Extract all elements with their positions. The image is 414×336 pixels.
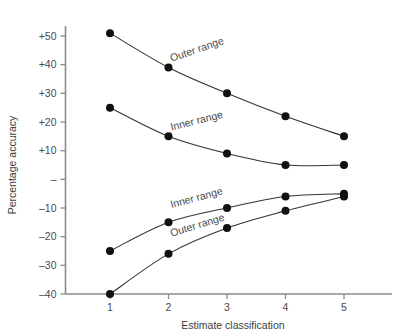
y-tick-label: –40	[39, 288, 57, 300]
x-tick-label: 3	[224, 301, 230, 313]
x-axis-title: Estimate classification	[181, 319, 284, 331]
data-point-marker	[340, 193, 348, 201]
y-tick-label: –10	[39, 202, 57, 214]
x-tick-label: 2	[166, 301, 172, 313]
percentage-accuracy-chart: +50+40+30+20+10––10–20–30–40 12345 Outer…	[0, 0, 414, 336]
y-tick-label: +30	[39, 87, 57, 99]
x-tick-label: 1	[107, 301, 113, 313]
series-label-0: Outer range	[168, 34, 225, 64]
data-point-marker	[340, 161, 348, 169]
data-point-marker	[340, 132, 348, 140]
y-tick-label: –	[51, 173, 57, 185]
data-point-marker	[165, 250, 173, 258]
series-2	[106, 190, 348, 255]
data-point-marker	[223, 224, 231, 232]
x-tick-label: 4	[283, 301, 289, 313]
y-axis-group: +50+40+30+20+10––10–20–30–40	[39, 26, 66, 300]
data-point-marker	[165, 218, 173, 226]
series-label-2: Inner range	[169, 184, 224, 210]
data-point-marker	[223, 204, 231, 212]
y-axis-ticks: +50+40+30+20+10––10–20–30–40	[39, 30, 66, 300]
chart-container: +50+40+30+20+10––10–20–30–40 12345 Outer…	[0, 0, 414, 336]
data-point-marker	[282, 161, 290, 169]
series-line	[110, 194, 344, 251]
y-tick-label: +40	[39, 58, 57, 70]
x-axis-ticks: 12345	[107, 294, 347, 313]
x-tick-label: 5	[341, 301, 347, 313]
data-point-marker	[282, 112, 290, 120]
data-point-marker	[223, 89, 231, 97]
series-inline-labels: Outer rangeInner rangeInner rangeOuter r…	[168, 34, 226, 239]
series-line	[110, 33, 344, 136]
y-tick-label: –30	[39, 259, 57, 271]
series-label-1: Inner range	[169, 108, 224, 133]
y-tick-label: +20	[39, 116, 57, 128]
y-tick-label: +10	[39, 144, 57, 156]
series-1	[106, 104, 348, 169]
data-point-marker	[106, 247, 114, 255]
data-point-marker	[165, 64, 173, 72]
data-point-marker	[223, 150, 231, 158]
data-point-marker	[165, 132, 173, 140]
y-tick-label: +50	[39, 30, 57, 42]
data-point-marker	[106, 290, 114, 298]
y-tick-label: –20	[39, 230, 57, 242]
plot-series-group	[106, 29, 348, 298]
data-point-marker	[106, 104, 114, 112]
y-axis-title: Percentage accuracy	[6, 115, 18, 214]
x-axis-group: 12345	[66, 294, 393, 313]
data-point-marker	[282, 207, 290, 215]
data-point-marker	[282, 193, 290, 201]
data-point-marker	[106, 29, 114, 37]
